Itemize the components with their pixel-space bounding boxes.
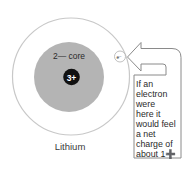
note-line: charge of: [136, 139, 186, 149]
note-line: electron: [136, 89, 186, 99]
note-line: a net: [136, 129, 186, 139]
nucleus-label: 3+: [67, 73, 77, 83]
atom-name-caption: Lithium: [0, 141, 140, 152]
note-line: would feel: [136, 119, 186, 129]
note-line: were: [136, 99, 186, 109]
note-line: about 1➕: [136, 149, 186, 159]
callout-note: If an electron were here it would feel a…: [136, 79, 186, 159]
note-line: If an: [136, 79, 186, 89]
note-line: here it: [136, 109, 186, 119]
core-label: 2— core: [53, 51, 85, 61]
electron-label: e⁻: [117, 54, 123, 60]
